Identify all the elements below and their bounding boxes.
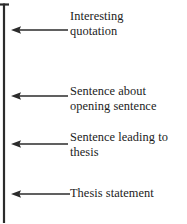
left-bracket <box>0 4 9 224</box>
label-interesting-quotation: Interesting quotation <box>70 9 187 40</box>
arrow-head-left-icon <box>11 190 21 198</box>
arrow-interesting-quotation <box>11 26 68 34</box>
arrow-head-left-icon <box>11 26 21 34</box>
arrow-head-left-icon <box>11 140 21 148</box>
label-sentence-leading-to-thesis: Sentence leading to thesis <box>70 130 187 161</box>
arrow-sentence-leading-to-thesis <box>11 140 68 148</box>
arrow-head-left-icon <box>11 92 21 100</box>
label-thesis-statement: Thesis statement <box>70 186 187 201</box>
arrow-thesis-statement <box>11 190 70 198</box>
arrow-sentence-about-opening <box>11 92 68 100</box>
introduction-structure-diagram: Interesting quotation Sentence about ope… <box>0 0 187 223</box>
label-sentence-about-opening: Sentence about opening sentence <box>70 84 187 115</box>
